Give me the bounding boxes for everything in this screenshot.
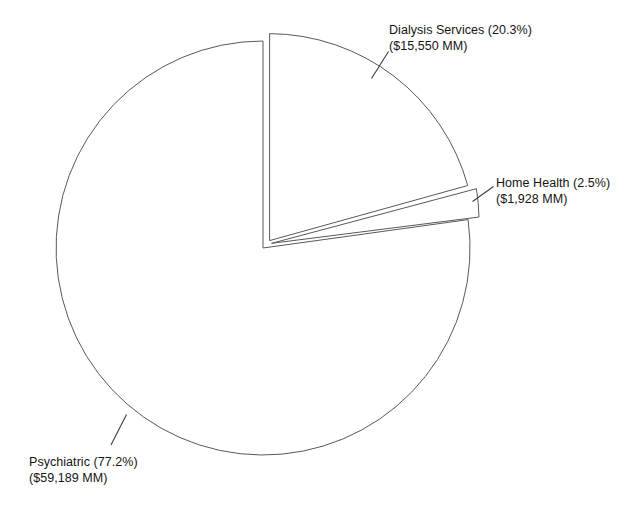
pie-label-dialysis-services-line2: ($15,550 MM) bbox=[389, 38, 532, 54]
pie-label-home-health: Home Health (2.5%) ($1,928 MM) bbox=[496, 175, 610, 207]
pie-label-home-health-line2: ($1,928 MM) bbox=[496, 191, 610, 207]
pie-label-psychiatric-line1: Psychiatric (77.2%) bbox=[29, 454, 138, 470]
pie-chart-figure: Dialysis Services (20.3%) ($15,550 MM) H… bbox=[0, 0, 637, 516]
pie-label-psychiatric-line2: ($59,189 MM) bbox=[29, 470, 138, 486]
pie-label-home-health-line1: Home Health (2.5%) bbox=[496, 175, 610, 191]
pie-label-dialysis-services-line1: Dialysis Services (20.3%) bbox=[389, 22, 532, 38]
pie-label-dialysis-services: Dialysis Services (20.3%) ($15,550 MM) bbox=[389, 22, 532, 54]
leader-line-psychiatric bbox=[111, 415, 127, 446]
pie-chart-canvas bbox=[0, 0, 637, 516]
pie-label-psychiatric: Psychiatric (77.2%) ($59,189 MM) bbox=[29, 454, 138, 486]
